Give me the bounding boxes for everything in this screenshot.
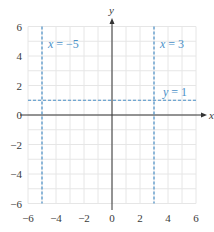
line-labels: x = −5 x = 3 y = 1 bbox=[47, 37, 187, 99]
x-tick-label: 6 bbox=[193, 212, 199, 224]
x-tick-label: −4 bbox=[50, 212, 62, 224]
x-tick-label: 2 bbox=[137, 212, 143, 224]
coordinate-plane: x y −6−4−20246 −6−4−20246 x = −5 x = 3 y… bbox=[0, 0, 214, 232]
y-tick-label: −2 bbox=[10, 139, 22, 151]
label-x-neg5: x = −5 bbox=[47, 37, 79, 51]
x-tick-label: −2 bbox=[78, 212, 90, 224]
label-x-3: x = 3 bbox=[159, 37, 184, 51]
y-tick-labels: −6−4−20246 bbox=[10, 21, 22, 210]
y-tick-label: −4 bbox=[10, 168, 22, 180]
y-tick-label: 2 bbox=[17, 80, 23, 92]
x-axis-arrow-icon bbox=[201, 113, 207, 118]
x-tick-label: 0 bbox=[109, 212, 115, 224]
y-tick-label: 4 bbox=[17, 50, 23, 62]
y-axis-arrow-icon bbox=[110, 18, 115, 24]
x-tick-label: 4 bbox=[165, 212, 171, 224]
y-tick-label: 0 bbox=[17, 109, 23, 121]
axes: x y bbox=[20, 4, 214, 210]
y-tick-label: −6 bbox=[10, 198, 22, 210]
x-tick-label: −6 bbox=[22, 212, 34, 224]
x-tick-labels: −6−4−20246 bbox=[22, 212, 199, 224]
y-axis-label: y bbox=[108, 4, 114, 16]
x-axis-label: x bbox=[208, 109, 214, 121]
label-y-1: y = 1 bbox=[162, 85, 187, 99]
y-tick-label: 6 bbox=[17, 21, 23, 33]
